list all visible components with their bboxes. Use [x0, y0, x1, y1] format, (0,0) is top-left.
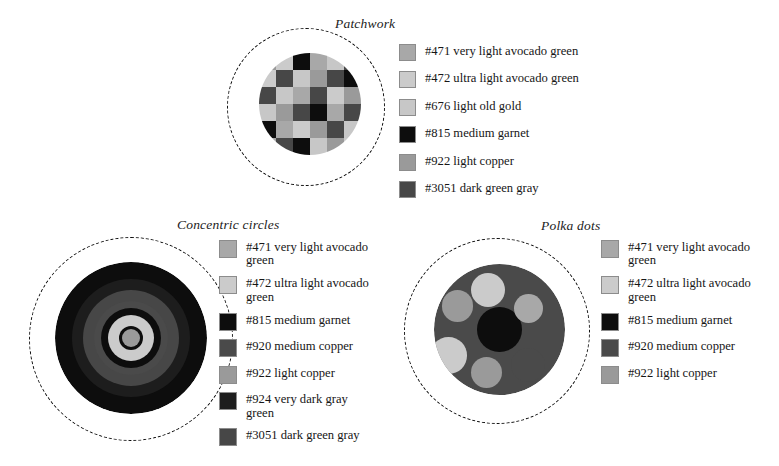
patchwork-cell [344, 104, 361, 121]
patchwork-grid [259, 53, 361, 155]
legend-color-swatch [399, 181, 416, 198]
concentric-rings [55, 262, 207, 414]
polka-title: Polka dots [541, 218, 600, 234]
legend-color-swatch [219, 366, 237, 384]
polka-dot [442, 290, 473, 321]
patchwork-cell [344, 87, 361, 104]
legend-color-swatch [219, 392, 237, 410]
concentric-artwork [55, 262, 207, 414]
patchwork-cell [310, 70, 327, 87]
legend-label: #471 very light avocado green [237, 240, 370, 268]
legend-row: #472 ultra light avocado green [219, 276, 370, 304]
legend-color-swatch [601, 366, 619, 384]
legend-label: #920 medium copper [237, 339, 370, 353]
legend-row: #924 very dark gray green [219, 392, 370, 420]
legend-label: #924 very dark gray green [237, 392, 370, 420]
legend-row: #815 medium garnet [219, 313, 370, 331]
patchwork-cell [327, 104, 344, 121]
patchwork-cell [276, 70, 293, 87]
panel-patchwork: Patchwork #471 very light avocado green#… [0, 0, 779, 210]
patchwork-cell [327, 70, 344, 87]
panel-concentric: Concentric circles #471 very light avoca… [0, 206, 400, 466]
legend-row: #471 very light avocado green [219, 240, 370, 268]
polka-artwork [434, 264, 565, 395]
patchwork-cell [310, 53, 327, 70]
patchwork-cell [327, 121, 344, 138]
legend-row: #472 ultra light avocado green [601, 276, 754, 304]
legend-color-swatch [601, 276, 619, 294]
patchwork-legend: #471 very light avocado green#472 ultra … [399, 44, 579, 208]
legend-row: #815 medium garnet [601, 313, 754, 331]
legend-label: #3051 dark green gray [237, 428, 370, 442]
legend-color-swatch [601, 339, 619, 357]
legend-row: #922 light copper [399, 154, 579, 171]
patchwork-cell [293, 87, 310, 104]
legend-row: #3051 dark green gray [399, 181, 579, 198]
legend-label: #815 medium garnet [619, 313, 754, 327]
legend-row: #922 light copper [219, 366, 370, 384]
legend-row: #922 light copper [601, 366, 754, 384]
polka-legend: #471 very light avocado green#472 ultra … [601, 240, 754, 392]
patchwork-cell [293, 121, 310, 138]
polka-dot [511, 348, 545, 382]
patchwork-cell [293, 104, 310, 121]
patchwork-cell [276, 87, 293, 104]
patchwork-cell [276, 104, 293, 121]
legend-row: #815 medium garnet [399, 126, 579, 143]
legend-row: #920 medium copper [219, 339, 370, 357]
patchwork-cell [310, 121, 327, 138]
concentric-legend: #471 very light avocado green#472 ultra … [219, 240, 370, 455]
polka-dot [514, 294, 543, 323]
patchwork-cell [293, 138, 310, 155]
legend-color-swatch [219, 240, 237, 258]
legend-label: #922 light copper [416, 154, 514, 168]
legend-label: #472 ultra light avocado green [619, 276, 754, 304]
legend-label: #676 light old gold [416, 99, 521, 113]
legend-color-swatch [601, 240, 619, 258]
patchwork-cell [327, 87, 344, 104]
legend-color-swatch [601, 313, 619, 331]
legend-color-swatch [399, 126, 416, 143]
polka-dots [434, 264, 565, 395]
patchwork-cell [310, 87, 327, 104]
legend-label: #472 ultra light avocado green [237, 276, 370, 304]
concentric-title: Concentric circles [177, 217, 279, 233]
patchwork-title: Patchwork [335, 16, 395, 32]
polka-dot [434, 337, 467, 374]
concentric-ring [122, 329, 140, 347]
legend-label: #471 very light avocado green [619, 240, 754, 268]
legend-color-swatch [219, 339, 237, 357]
legend-row: #471 very light avocado green [399, 44, 579, 61]
legend-row: #471 very light avocado green [601, 240, 754, 268]
legend-label: #920 medium copper [619, 339, 754, 353]
patchwork-cell [259, 87, 276, 104]
patchwork-artwork [259, 53, 361, 155]
patchwork-cell [259, 104, 276, 121]
legend-color-swatch [399, 99, 416, 116]
legend-row: #920 medium copper [601, 339, 754, 357]
legend-label: #922 light copper [619, 366, 754, 380]
legend-color-swatch [399, 71, 416, 88]
patchwork-cell [293, 70, 310, 87]
legend-color-swatch [219, 313, 237, 331]
legend-color-swatch [399, 154, 416, 171]
polka-dot [471, 357, 502, 388]
legend-label: #472 ultra light avocado green [416, 71, 579, 85]
legend-label: #922 light copper [237, 366, 370, 380]
patchwork-cell [310, 138, 327, 155]
legend-color-swatch [399, 44, 416, 61]
legend-row: #676 light old gold [399, 99, 579, 116]
legend-label: #815 medium garnet [416, 126, 529, 140]
legend-label: #3051 dark green gray [416, 181, 539, 195]
patchwork-cell [310, 104, 327, 121]
legend-color-swatch [219, 276, 237, 294]
legend-label: #815 medium garnet [237, 313, 370, 327]
panel-polka: Polka dots #471 very light avocado green… [395, 206, 779, 466]
legend-row: #3051 dark green gray [219, 428, 370, 446]
legend-color-swatch [219, 428, 237, 446]
patchwork-cell [293, 53, 310, 70]
polka-dot [471, 273, 505, 307]
legend-label: #471 very light avocado green [416, 44, 578, 58]
legend-row: #472 ultra light avocado green [399, 71, 579, 88]
patchwork-cell [276, 121, 293, 138]
